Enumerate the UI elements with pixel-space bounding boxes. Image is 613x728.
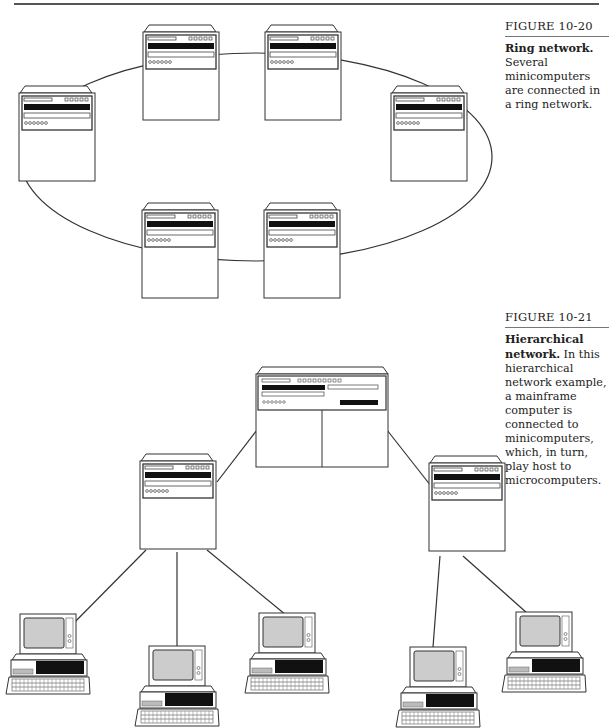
ring-minicomputer-6 [19,86,95,181]
figure-10-21-caption: FIGURE 10-21 Hierarchical network. In th… [505,310,609,488]
ring-minicomputer-5 [142,203,218,298]
figure-10-20-caption: FIGURE 10-20 Ring network. Several minic… [505,19,609,112]
caption-body: In this hierarchical network example, a … [505,348,606,487]
microcomputer-5 [502,612,586,692]
figure-label: FIGURE 10-21 [505,310,609,328]
caption-lead: Ring network. [505,41,593,55]
ring-minicomputer-1 [143,25,219,120]
microcomputer-1 [6,614,90,694]
microcomputer-4 [396,647,480,727]
caption-text: Ring network. Several minicomputers are … [505,41,609,112]
ring-minicomputer-3 [391,86,467,181]
ring-network-diagram [19,25,492,298]
figure-label: FIGURE 10-20 [505,19,609,37]
microcomputer-3 [245,613,329,693]
caption-text: Hierarchical network. In this hierarchic… [505,332,609,488]
microcomputer-2 [135,646,219,726]
hier-minicomputer-left [140,454,216,549]
hier-minicomputer-right [429,456,505,551]
mainframe-computer [256,367,388,467]
ring-minicomputer-2 [265,25,341,120]
caption-body: Several minicomputers are connected in a… [505,56,600,111]
ring-minicomputer-4 [264,203,340,298]
